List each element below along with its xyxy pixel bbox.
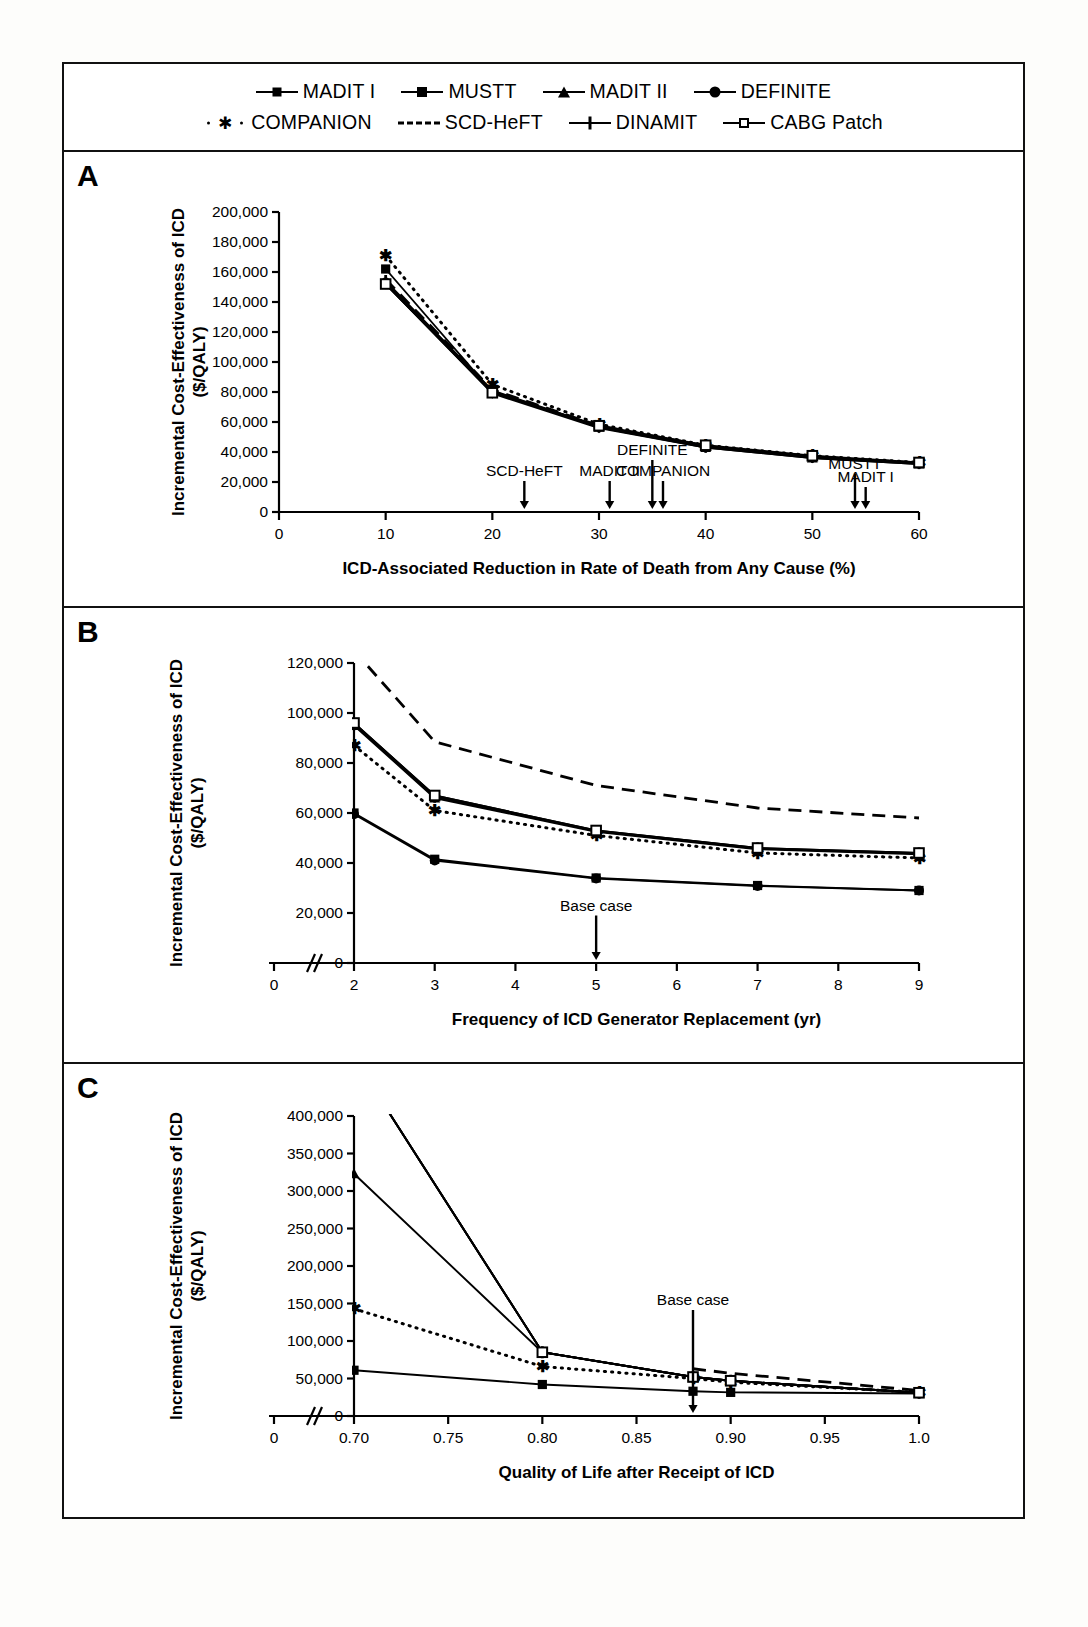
svg-text:50,000: 50,000 <box>296 1370 344 1387</box>
svg-text:0: 0 <box>270 976 279 993</box>
panel-c-chart: 050,000100,000150,000200,000250,000300,0… <box>64 1064 1022 1516</box>
svg-text:80,000: 80,000 <box>221 383 269 400</box>
legend-label: CABG Patch <box>770 111 883 134</box>
svg-text:150,000: 150,000 <box>287 1295 343 1312</box>
legend-item-madit-i: MADIT I <box>256 80 376 103</box>
legend-label: COMPANION <box>251 111 372 134</box>
figure-page: MADIT I MUSTT MADIT II <box>0 0 1088 1627</box>
svg-text:SCD-HeFT: SCD-HeFT <box>486 462 563 479</box>
svg-text:3: 3 <box>430 976 439 993</box>
svg-text:Quality of Life after Receipt: Quality of Life after Receipt of ICD <box>499 1463 775 1482</box>
svg-text:2: 2 <box>350 976 359 993</box>
svg-text:8: 8 <box>834 976 843 993</box>
legend-item-definite: DEFINITE <box>694 80 831 103</box>
svg-text:60: 60 <box>910 525 928 542</box>
svg-text:20,000: 20,000 <box>221 473 269 490</box>
svg-text:40,000: 40,000 <box>296 854 344 871</box>
panel-c: C 050,000100,000150,000200,000250,000300… <box>64 1064 1023 1516</box>
svg-text:200,000: 200,000 <box>212 203 268 220</box>
svg-text:0.75: 0.75 <box>433 1429 463 1446</box>
svg-text:5: 5 <box>592 976 601 993</box>
svg-text:COMPANION: COMPANION <box>616 462 710 479</box>
svg-text:9: 9 <box>915 976 924 993</box>
madit-ii-sample-icon <box>543 84 585 100</box>
legend-label: DEFINITE <box>741 80 831 103</box>
svg-text:DEFINITE: DEFINITE <box>617 441 688 458</box>
svg-text:✱: ✱ <box>428 802 441 819</box>
legend-item-dinamit: DINAMIT <box>569 111 698 134</box>
legend-label: MADIT I <box>303 80 376 103</box>
svg-text:($/QALY): ($/QALY) <box>190 326 209 397</box>
legend-item-companion: ✱ COMPANION <box>204 111 372 134</box>
panel-b-chart: 020,00040,00060,00080,000100,000120,0000… <box>64 608 1022 1064</box>
svg-text:($/QALY): ($/QALY) <box>188 1230 207 1301</box>
companion-sample-icon: ✱ <box>204 115 246 131</box>
legend-label: DINAMIT <box>616 111 698 134</box>
svg-text:0: 0 <box>334 1407 343 1424</box>
svg-text:140,000: 140,000 <box>212 293 268 310</box>
svg-text:1.0: 1.0 <box>908 1429 930 1446</box>
svg-text:ICD-Associated Reduction in Ra: ICD-Associated Reduction in Rate of Deat… <box>342 559 855 578</box>
legend-label: SCD-HeFT <box>445 111 543 134</box>
svg-text:0.80: 0.80 <box>527 1429 558 1446</box>
svg-text:MADIT I: MADIT I <box>837 468 894 485</box>
svg-text:7: 7 <box>753 976 762 993</box>
svg-text:100,000: 100,000 <box>287 704 343 721</box>
svg-text:100,000: 100,000 <box>212 353 268 370</box>
panel-a: A 020,00040,00060,00080,000100,000120,00… <box>64 152 1023 608</box>
panel-b: B 020,00040,00060,00080,000100,000120,00… <box>64 608 1023 1064</box>
figure-frame: MADIT I MUSTT MADIT II <box>62 62 1025 1519</box>
svg-text:40: 40 <box>697 525 715 542</box>
legend-row-2: ✱ COMPANION SCD-HeFT DINAMIT <box>64 107 1023 138</box>
svg-text:Frequency of ICD Generator Rep: Frequency of ICD Generator Replacement (… <box>452 1010 821 1029</box>
panel-a-chart: 020,00040,00060,00080,000100,000120,0001… <box>64 152 1022 608</box>
svg-text:6: 6 <box>673 976 682 993</box>
svg-text:4: 4 <box>511 976 520 993</box>
svg-text:30: 30 <box>590 525 608 542</box>
definite-sample-icon <box>694 84 736 100</box>
svg-text:400,000: 400,000 <box>287 1107 343 1124</box>
svg-text:✱: ✱ <box>536 1358 549 1375</box>
mustt-sample-icon <box>401 84 443 100</box>
svg-text:160,000: 160,000 <box>212 263 268 280</box>
svg-text:✱: ✱ <box>348 737 361 754</box>
svg-text:20,000: 20,000 <box>296 904 344 921</box>
svg-text:Base case: Base case <box>560 897 632 914</box>
svg-text:100,000: 100,000 <box>287 1332 343 1349</box>
cabg-patch-sample-icon <box>723 115 765 131</box>
legend-item-madit-ii: MADIT II <box>543 80 668 103</box>
svg-text:($/QALY): ($/QALY) <box>188 777 207 848</box>
svg-text:Incremental Cost-Effectiveness: Incremental Cost-Effectiveness of ICD <box>167 1112 186 1420</box>
panel-c-label: C <box>77 1071 99 1105</box>
svg-text:250,000: 250,000 <box>287 1220 343 1237</box>
svg-text:180,000: 180,000 <box>212 233 268 250</box>
svg-text:200,000: 200,000 <box>287 1257 343 1274</box>
svg-text:120,000: 120,000 <box>287 654 343 671</box>
svg-text:0: 0 <box>334 954 343 971</box>
svg-text:0: 0 <box>259 503 268 520</box>
dinamit-sample-icon <box>569 115 611 131</box>
madit-i-sample-icon <box>256 84 298 100</box>
figure-legend: MADIT I MUSTT MADIT II <box>64 64 1023 152</box>
legend-label: MUSTT <box>448 80 516 103</box>
svg-text:Incremental Cost-Effectiveness: Incremental Cost-Effectiveness of ICD <box>169 208 188 516</box>
svg-text:60,000: 60,000 <box>221 413 269 430</box>
svg-text:120,000: 120,000 <box>212 323 268 340</box>
legend-item-cabg-patch: CABG Patch <box>723 111 883 134</box>
svg-text:0: 0 <box>275 525 284 542</box>
svg-text:Incremental Cost-Effectiveness: Incremental Cost-Effectiveness of ICD <box>167 659 186 967</box>
legend-item-scd-heft: SCD-HeFT <box>398 111 543 134</box>
svg-text:300,000: 300,000 <box>287 1182 343 1199</box>
panel-a-label: A <box>77 159 99 193</box>
svg-text:350,000: 350,000 <box>287 1145 343 1162</box>
svg-text:60,000: 60,000 <box>296 804 344 821</box>
svg-text:20: 20 <box>484 525 502 542</box>
svg-text:40,000: 40,000 <box>221 443 269 460</box>
legend-row-1: MADIT I MUSTT MADIT II <box>64 76 1023 107</box>
svg-text:✱: ✱ <box>379 247 392 264</box>
legend-label: MADIT II <box>590 80 668 103</box>
svg-text:0.95: 0.95 <box>810 1429 840 1446</box>
legend-item-mustt: MUSTT <box>401 80 516 103</box>
panel-b-label: B <box>77 615 99 649</box>
svg-text:0.70: 0.70 <box>339 1429 370 1446</box>
